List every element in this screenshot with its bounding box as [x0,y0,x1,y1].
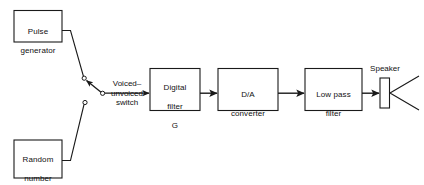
label-pulse-generator: Pulse generator [14,17,62,65]
label-random-number-generator-line1: Random [14,155,62,165]
label-low-pass-filter-line1: Low pass [305,90,362,100]
speaker-cone-icon [390,76,419,110]
switch-contact-unvoiced[interactable] [83,100,87,104]
switch-contact-voiced[interactable] [82,76,86,80]
label-pulse-generator-line2: generator [14,46,62,56]
label-switch-line1: Voiced– [104,79,150,89]
label-switch-line2: unvoiced [104,89,150,99]
switch-blade[interactable] [87,81,103,94]
label-random-number-generator: Random number generator [14,145,62,185]
label-low-pass-filter: Low pass filter [305,80,362,128]
wire-random-to-switch [62,105,84,161]
label-digital-filter-line1: Digital [150,83,200,93]
label-voiced-unvoiced-switch: Voiced– unvoiced switch [104,79,150,108]
speaker-body [380,78,390,108]
label-digital-filter-symbol: G [150,121,200,131]
wire-pulse-to-switch [62,31,84,77]
label-digital-filter-line2: filter [150,102,200,112]
label-da-converter-line2: converter [218,109,278,119]
label-speaker: Speaker [362,64,408,74]
label-low-pass-filter-line2: filter [305,109,362,119]
label-da-converter: D/A converter [218,80,278,128]
label-pulse-generator-line1: Pulse [14,27,62,37]
label-da-converter-line1: D/A [218,90,278,100]
label-switch-line3: switch [104,98,150,108]
label-random-number-generator-line2: number [14,174,62,184]
diagram-canvas: Pulse generator Random number generator … [0,0,424,185]
label-digital-filter: Digital filter G [150,73,200,140]
